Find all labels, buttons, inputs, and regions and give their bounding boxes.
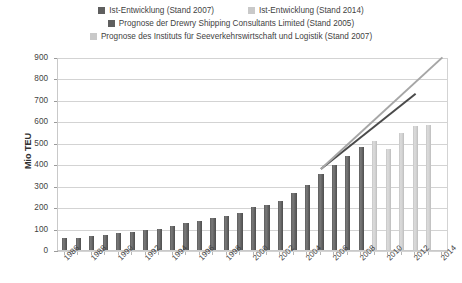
bar xyxy=(372,141,377,250)
legend-entry-ist-2007: Ist-Entwicklung (Stand 2007) xyxy=(98,6,214,15)
gridline xyxy=(58,58,448,59)
bar xyxy=(345,156,350,250)
legend-label: Prognose der Drewry Shipping Consultants… xyxy=(119,19,354,28)
bar xyxy=(305,185,310,250)
y-tick-label: 700 xyxy=(14,97,48,105)
y-tick-label: 400 xyxy=(14,161,48,169)
bar xyxy=(143,230,148,250)
bar xyxy=(413,126,418,250)
gridline xyxy=(58,101,448,102)
legend-label: Ist-Entwicklung (Stand 2007) xyxy=(109,6,214,15)
y-tick-label: 900 xyxy=(14,54,48,62)
y-tick-label: 300 xyxy=(14,183,48,191)
y-axis-title: Mio TEU xyxy=(23,121,33,181)
y-tick-label: 500 xyxy=(14,140,48,148)
y-tick-label: 100 xyxy=(14,226,48,234)
y-tick-label: 200 xyxy=(14,204,48,212)
legend-label: Ist-Entwicklung (Stand 2014) xyxy=(259,6,364,15)
bar xyxy=(224,216,229,250)
square-swatch-icon xyxy=(90,33,97,40)
bar xyxy=(386,149,391,250)
gridline xyxy=(58,122,448,123)
chart-legend: Ist-Entwicklung (Stand 2007) Ist-Entwick… xyxy=(0,4,462,43)
y-tick-label: 600 xyxy=(14,118,48,126)
bar xyxy=(197,221,202,250)
bar xyxy=(399,133,404,250)
y-tick-label: 800 xyxy=(14,75,48,83)
bar xyxy=(291,193,296,250)
square-swatch-icon xyxy=(98,7,105,14)
square-swatch-icon xyxy=(248,7,255,14)
legend-entry-isl: Prognose des Instituts für Seeverkehrswi… xyxy=(90,32,372,41)
legend-row: Prognose des Instituts für Seeverkehrswi… xyxy=(0,30,462,43)
bar xyxy=(170,226,175,250)
bar xyxy=(89,236,94,250)
legend-row: Ist-Entwicklung (Stand 2007) Ist-Entwick… xyxy=(0,4,462,17)
bar xyxy=(251,207,256,250)
plot-right-edge xyxy=(447,58,448,250)
bar xyxy=(116,233,121,250)
bar xyxy=(318,174,323,250)
bar xyxy=(264,205,269,250)
legend-entry-drewry: Prognose der Drewry Shipping Consultants… xyxy=(108,19,354,28)
legend-entry-ist-2014: Ist-Entwicklung (Stand 2014) xyxy=(248,6,364,15)
y-tick-label: 0 xyxy=(14,247,48,255)
chart-container: Ist-Entwicklung (Stand 2007) Ist-Entwick… xyxy=(0,0,462,283)
bar xyxy=(426,125,431,250)
gridline xyxy=(58,144,448,145)
gridline xyxy=(58,79,448,80)
square-swatch-icon xyxy=(108,20,115,27)
legend-row: Prognose der Drewry Shipping Consultants… xyxy=(0,17,462,30)
bar xyxy=(359,147,364,250)
legend-label: Prognose des Instituts für Seeverkehrswi… xyxy=(101,32,372,41)
bar xyxy=(332,165,337,250)
plot-area xyxy=(57,58,448,251)
forecast-line xyxy=(320,57,443,170)
bar xyxy=(278,201,283,250)
bar xyxy=(62,238,67,250)
